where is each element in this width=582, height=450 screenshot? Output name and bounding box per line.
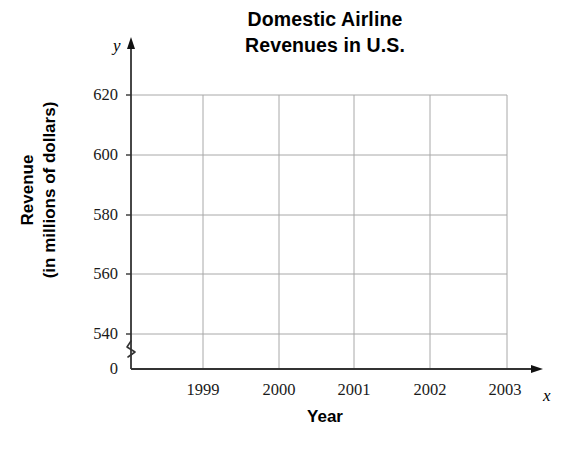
x-axis-line <box>131 365 543 373</box>
y-axis-line <box>127 37 135 369</box>
plot-area <box>0 0 582 450</box>
vertical-gridlines <box>203 95 507 369</box>
chart-figure: Domestic Airline Revenues in U.S. Revenu… <box>0 0 582 450</box>
horizontal-gridlines <box>131 95 507 334</box>
